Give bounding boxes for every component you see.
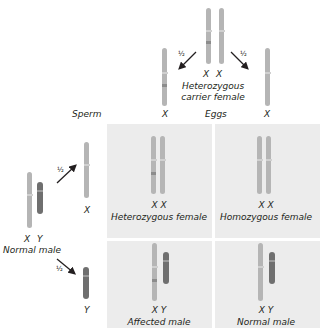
sperm-header: Sperm (72, 110, 101, 119)
offspring3-label: Affected male (127, 318, 190, 327)
father-label: Normal male (3, 246, 61, 255)
offspring1-label: Heterozygous female (111, 213, 207, 222)
offspring2-x-1 (257, 136, 262, 194)
offspring3-genotype: X Y (152, 306, 167, 315)
father-x-chromosome (27, 172, 32, 228)
sperm-probability-x: ½ (57, 166, 64, 174)
offspring1-x-normal (160, 136, 165, 194)
sperm-gamete-label-x: X (84, 206, 90, 215)
mother-label-line2: carrier female (181, 93, 245, 102)
sperm-y-chromosome (83, 267, 89, 299)
offspring3-y (163, 252, 169, 284)
offspring4-genotype: X Y (259, 306, 274, 315)
mother-label-line1: Heterozygous (182, 82, 244, 91)
mother-genotype-x2: X (216, 70, 222, 79)
offspring2-genotype: X X (258, 201, 273, 210)
offspring4-y (269, 252, 275, 284)
father-genotype-y: Y (37, 235, 43, 244)
father-y-chromosome (37, 182, 43, 214)
egg-gamete-label-right: X (264, 110, 270, 119)
offspring3-x-mutant (152, 243, 157, 301)
offspring4-label: Normal male (237, 318, 295, 327)
offspring2-label: Homozygous female (220, 213, 312, 222)
egg-probability-left: ½ (178, 50, 185, 58)
mother-genotype-x1: X (203, 70, 209, 79)
offspring4-x-normal (258, 243, 263, 301)
sperm-x-chromosome (84, 142, 89, 198)
mother-x-chromosome-normal (219, 8, 224, 64)
egg-x-chromosome-mutant (162, 48, 167, 106)
egg-x-chromosome-normal (265, 48, 270, 106)
offspring1-x-mutant (151, 136, 156, 194)
offspring1-genotype: X X (151, 201, 166, 210)
offspring2-x-2 (266, 136, 271, 194)
sperm-gamete-label-y: Y (84, 306, 90, 315)
egg-gamete-label-left: X (162, 110, 168, 119)
father-genotype-x: X (24, 235, 30, 244)
mother-x-chromosome-mutant (206, 8, 211, 64)
sperm-probability-y: ½ (56, 265, 63, 273)
eggs-header: Eggs (205, 110, 227, 119)
egg-probability-right: ½ (240, 50, 247, 58)
